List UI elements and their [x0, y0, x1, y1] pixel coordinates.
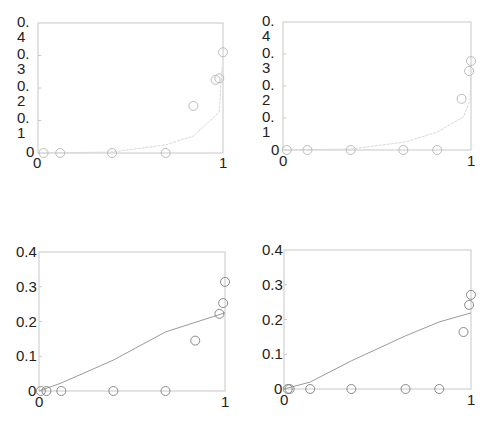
axes-box [284, 250, 471, 389]
data-point-circle [465, 300, 474, 309]
fit-line [284, 313, 471, 389]
chart-panel-bottom-right: 0.4 0.3 0.2 0.1 0 0 1 [0, 0, 495, 428]
plot-area [0, 0, 495, 428]
data-point-circle [459, 328, 468, 337]
